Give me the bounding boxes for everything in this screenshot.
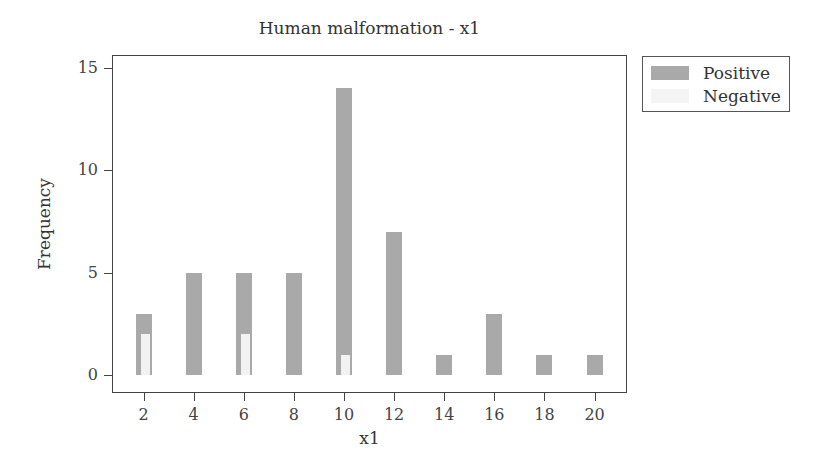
x-tick — [494, 393, 495, 401]
y-tick-label: 15 — [60, 60, 98, 76]
bar-positive — [286, 273, 302, 376]
bar-positive — [336, 88, 352, 375]
bar-negative — [241, 334, 250, 375]
y-tick-label: 10 — [60, 162, 98, 178]
x-tick — [394, 393, 395, 401]
bar-positive — [587, 355, 603, 376]
y-tick-label: 0 — [60, 367, 98, 383]
legend-swatch-positive — [651, 66, 689, 80]
x-tick — [294, 393, 295, 401]
y-tick — [104, 68, 112, 69]
legend-item-negative: Negative — [651, 85, 781, 107]
bar-positive — [186, 273, 202, 376]
bar-negative — [341, 355, 350, 376]
x-tick-label: 8 — [274, 405, 314, 424]
x-tick — [544, 393, 545, 401]
y-tick-label: 5 — [60, 265, 98, 281]
legend: Positive Negative — [642, 56, 790, 112]
legend-label-positive: Positive — [703, 63, 770, 83]
y-tick — [104, 170, 112, 171]
x-tick — [595, 393, 596, 401]
chart-title: Human malformation - x1 — [112, 18, 627, 38]
bar-negative — [141, 334, 150, 375]
x-tick — [444, 393, 445, 401]
x-tick-label: 6 — [224, 405, 264, 424]
x-tick-label: 18 — [524, 405, 564, 424]
x-tick-label: 14 — [424, 405, 464, 424]
bar-positive — [536, 355, 552, 376]
legend-label-negative: Negative — [703, 86, 781, 106]
legend-item-positive: Positive — [651, 62, 770, 84]
y-tick — [104, 375, 112, 376]
y-tick — [104, 273, 112, 274]
x-tick-label: 12 — [374, 405, 414, 424]
x-tick-label: 16 — [474, 405, 514, 424]
x-tick-label: 4 — [174, 405, 214, 424]
legend-swatch-negative — [651, 89, 689, 103]
x-axis-title: x1 — [112, 428, 627, 448]
x-tick — [194, 393, 195, 401]
y-axis-title: Frequency — [34, 178, 54, 270]
x-tick — [344, 393, 345, 401]
x-tick — [244, 393, 245, 401]
x-tick — [144, 393, 145, 401]
x-tick-label: 20 — [575, 405, 615, 424]
bar-positive — [386, 232, 402, 376]
x-tick-label: 2 — [124, 405, 164, 424]
bar-positive — [436, 355, 452, 376]
bar-positive — [486, 314, 502, 376]
x-tick-label: 10 — [324, 405, 364, 424]
